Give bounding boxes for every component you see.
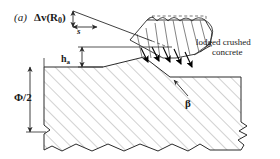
ha-subscript: a xyxy=(67,58,71,66)
concrete-hatch-fill xyxy=(40,50,250,155)
phi-half-label: Φ/2 xyxy=(14,92,32,103)
resultant-hypotenuse xyxy=(73,11,152,41)
slip-label: s xyxy=(77,27,81,36)
beta-label: β xyxy=(185,98,191,109)
delta-v-close-paren: ) xyxy=(62,11,66,23)
lodged-line-2: concrete xyxy=(196,47,251,57)
delta-v-text: Δv(R xyxy=(34,11,58,23)
ha-label: ha xyxy=(61,54,70,66)
concrete-body xyxy=(40,50,250,155)
panel-label: (a) xyxy=(14,12,27,23)
lodged-line-1: lodged crushed xyxy=(196,37,251,47)
delta-v-label: Δv(R0) xyxy=(34,12,66,25)
lodged-crushed-concrete-label: lodged crushed concrete xyxy=(196,37,251,58)
